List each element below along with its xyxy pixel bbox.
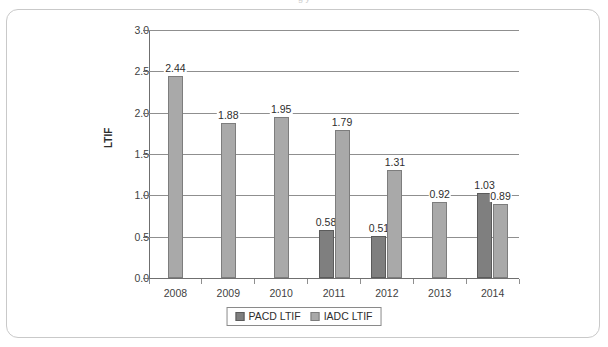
bar[interactable]: 1.31 [387,170,402,278]
bar-value-label: 1.95 [270,104,292,115]
y-axis-tick-mark [143,237,149,238]
bar-group: 2.44 [149,30,202,278]
bar-group-bars: 1.95 [255,30,308,278]
bar[interactable]: 0.89 [493,204,508,278]
bar-value-label: 0.89 [489,191,511,202]
x-axis-tick-label: 2009 [202,286,255,302]
y-axis-tick-mark [143,154,149,155]
plot-wrapper: LTIF 0.00.51.01.52.02.53.0 2.441.881.950… [7,10,601,339]
y-axis-tick-mark [143,113,149,114]
bar-group-bars: 0.92 [413,30,466,278]
bar[interactable]: 0.51 [371,236,386,278]
bar[interactable]: 2.44 [168,76,183,278]
bar-group-bars: 0.581.79 [308,30,361,278]
bar-value-label: 1.31 [384,157,406,168]
x-axis-tick-mark [202,279,255,284]
y-axis-tick-mark [143,30,149,31]
bar[interactable]: 1.79 [335,130,350,278]
x-axis-tick-label: 2012 [360,286,413,302]
bar-group: 1.030.89 [466,30,519,278]
bar-value-label: 1.79 [331,117,353,128]
legend-label: PACD LTIF [249,311,301,322]
bar-group: 0.511.31 [360,30,413,278]
y-axis-tick-mark [143,71,149,72]
bar[interactable]: 1.88 [221,123,236,278]
x-axis-tick-mark [308,279,361,284]
chart-legend: PACD LTIFIADC LTIF [227,307,382,326]
bar[interactable]: 1.03 [477,193,492,278]
clipped-header-text: g y [0,0,608,6]
bar-group: 0.92 [413,30,466,278]
x-axis-tick-mark [413,279,466,284]
bar-group-bars: 1.030.89 [466,30,519,278]
x-axis-tick-mark [149,279,202,284]
x-axis-tick-mark [255,279,308,284]
y-axis-tick-labels: 0.00.51.01.52.02.53.0 [117,10,149,339]
legend-label: IADC LTIF [324,311,373,322]
bar-group-bars: 2.44 [149,30,202,278]
y-axis-tick-mark [143,278,149,279]
legend-swatch-icon [311,312,320,321]
x-axis-tick-label: 2010 [255,286,308,302]
x-axis-tick-label: 2014 [466,286,519,302]
bar-group: 1.88 [202,30,255,278]
x-axis-tick-label: 2011 [308,286,361,302]
bar-value-label: 1.03 [473,180,495,191]
legend-item[interactable]: IADC LTIF [311,311,373,322]
bar-value-label: 2.44 [164,63,186,74]
legend-item[interactable]: PACD LTIF [236,311,301,322]
bar-group-bars: 1.88 [202,30,255,278]
chart-frame: LTIF 0.00.51.01.52.02.53.0 2.441.881.950… [6,9,600,338]
bar[interactable]: 1.95 [274,117,289,278]
x-axis-ticks [149,279,519,284]
bar-group: 1.95 [255,30,308,278]
x-axis-tick-mark [466,279,519,284]
y-axis-title: LTIF [103,128,114,148]
x-axis-tick-mark [360,279,413,284]
bar-group-bars: 0.511.31 [360,30,413,278]
x-axis-tick-labels: 2008200920102011201220132014 [149,286,519,302]
x-axis-tick-label: 2013 [413,286,466,302]
y-axis-tick-mark [143,195,149,196]
bar-value-label: 1.88 [217,110,239,121]
bar-groups: 2.441.881.950.581.790.511.310.921.030.89 [149,30,519,278]
bar-value-label: 0.92 [429,189,451,200]
bar-group: 0.581.79 [308,30,361,278]
bar[interactable]: 0.58 [319,230,334,278]
legend-swatch-icon [236,312,245,321]
bar[interactable]: 0.92 [432,202,447,278]
x-axis-tick-label: 2008 [149,286,202,302]
